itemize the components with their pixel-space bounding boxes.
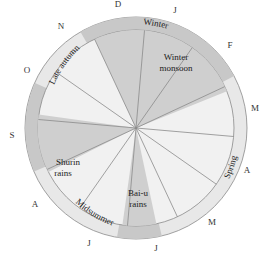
shurin-label-2: rains <box>54 168 72 178</box>
winter-monsoon-label-2: monsoon <box>159 63 193 73</box>
month-label-j3: J <box>87 238 91 248</box>
baiu-label-1: Bai-u <box>128 188 148 198</box>
month-label-n: N <box>58 21 65 31</box>
winter-monsoon-label-1: Winter <box>164 52 189 62</box>
seasonal-calendar-diagram: Winter Late autumn Spring Midsummer Wint… <box>0 0 261 266</box>
month-label-j2: J <box>154 243 158 253</box>
month-label-s: S <box>9 130 14 140</box>
month-label-m2: M <box>208 217 216 227</box>
month-label-j: J <box>173 5 177 15</box>
month-label-d: D <box>115 0 122 9</box>
month-label-a2: A <box>32 199 39 209</box>
month-label-f: F <box>227 40 232 50</box>
month-label-o: O <box>24 65 31 75</box>
month-label-m: M <box>251 103 259 113</box>
baiu-label-2: rains <box>129 199 147 209</box>
month-label-a: A <box>244 165 251 175</box>
shurin-label-1: Shurin <box>56 157 81 167</box>
